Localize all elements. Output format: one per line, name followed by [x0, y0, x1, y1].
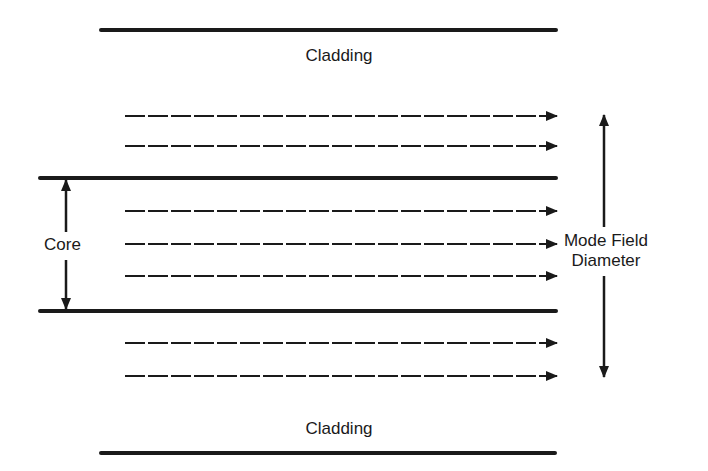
cladding-label-top: Cladding: [284, 46, 394, 66]
mode-field-diameter-label: Mode Field Diameter: [560, 231, 652, 271]
propagation-arrows: [125, 116, 557, 376]
mode-field-label-line2: Diameter: [560, 251, 652, 271]
core-label: Core: [44, 235, 81, 255]
cladding-label-bottom: Cladding: [284, 419, 394, 439]
mode-field-label-line1: Mode Field: [560, 231, 652, 251]
